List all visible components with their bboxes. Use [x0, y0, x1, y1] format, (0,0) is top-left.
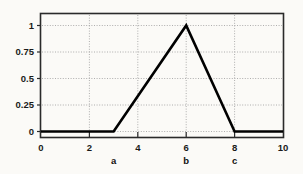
- figure-background: [0, 0, 303, 174]
- x-tick-label-0: 0: [38, 142, 43, 153]
- param-label-b: b: [183, 155, 189, 166]
- chart-figure: 00.250.50.751 0246810 abc: [0, 0, 303, 174]
- y-tick-label-0.5: 0.5: [21, 73, 35, 84]
- param-label-a: a: [111, 155, 117, 166]
- triangular-membership-chart: 00.250.50.751 0246810 abc: [0, 0, 303, 174]
- x-tick-label-8: 8: [232, 142, 237, 153]
- x-tick-label-10: 10: [278, 142, 289, 153]
- x-tick-label-6: 6: [184, 142, 189, 153]
- y-tick-label-0.75: 0.75: [16, 46, 35, 57]
- y-tick-label-0: 0: [29, 126, 34, 137]
- x-tick-label-2: 2: [87, 142, 92, 153]
- y-tick-label-0.25: 0.25: [16, 99, 35, 110]
- y-tick-label-1: 1: [29, 20, 35, 31]
- param-label-c: c: [232, 155, 237, 166]
- x-tick-label-4: 4: [135, 142, 141, 153]
